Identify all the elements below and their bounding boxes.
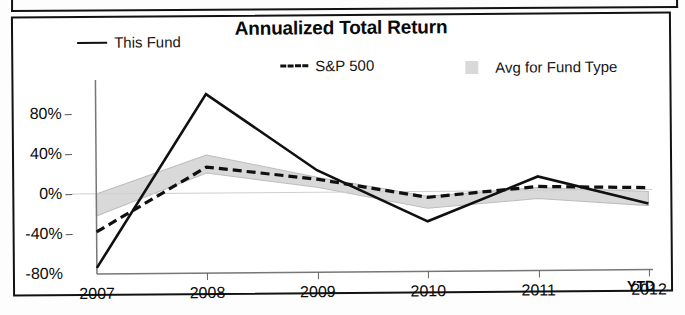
x-axis-label: 2010 xyxy=(410,282,446,300)
y-axis-tick xyxy=(65,154,72,155)
x-axis-tick xyxy=(649,270,650,277)
legend-label-avg-for-fund-type: Avg for Fund Type xyxy=(495,58,617,76)
x-axis-label: 2007 xyxy=(79,285,115,303)
legend-item-this-fund: This Fund xyxy=(77,33,181,51)
x-axis-tick xyxy=(207,273,208,280)
annualized-total-return-chart: Annualized Total Return This Fund S&P 50… xyxy=(11,11,673,296)
series-layer xyxy=(71,80,652,275)
x-axis-label: 2009 xyxy=(300,283,336,301)
y-axis-label: 0% xyxy=(39,185,62,203)
x-axis-tick xyxy=(539,270,540,277)
x-axis-tick xyxy=(428,271,429,278)
legend-label-sp-500: S&P 500 xyxy=(315,57,374,74)
chart-inner: Annualized Total Return This Fund S&P 50… xyxy=(13,13,671,294)
y-axis-tick xyxy=(65,194,72,195)
solid-line-swatch-icon xyxy=(77,41,107,43)
x-axis-tick xyxy=(318,272,319,279)
y-axis-label: -80% xyxy=(26,265,63,283)
x-axis-ytd-note: YTD xyxy=(627,278,655,294)
x-axis-line xyxy=(97,270,653,274)
y-axis-line xyxy=(95,80,97,274)
dashed-line-swatch-icon xyxy=(280,64,308,67)
x-axis-label: 2008 xyxy=(190,284,226,302)
y-axis-tick xyxy=(65,114,72,115)
y-axis-label: 80% xyxy=(30,105,62,123)
gray-band-swatch-icon xyxy=(465,61,478,74)
y-axis-tick xyxy=(66,234,73,235)
x-axis-label: 2011 xyxy=(521,281,556,299)
legend-label-this-fund: This Fund xyxy=(114,33,181,51)
y-axis-label: -40% xyxy=(25,225,62,243)
plot-area: 80%40%0%-40%-80% 20072008200920102011201… xyxy=(71,80,652,275)
y-axis-label: 40% xyxy=(30,145,62,163)
legend-item-avg-for-fund-type: Avg for Fund Type xyxy=(465,58,617,76)
legend-item-sp-500: S&P 500 xyxy=(280,57,374,75)
